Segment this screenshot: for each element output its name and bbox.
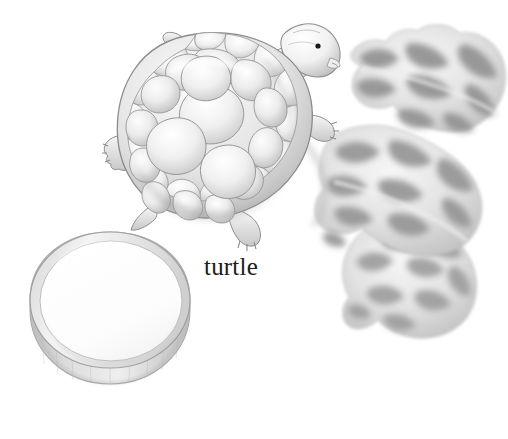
turtle-eye-icon	[315, 43, 320, 48]
bowl-group	[30, 232, 190, 384]
illustration-scene: turtle	[0, 0, 508, 439]
illustration-canvas	[0, 0, 508, 439]
caption-label: turtle	[204, 254, 258, 279]
